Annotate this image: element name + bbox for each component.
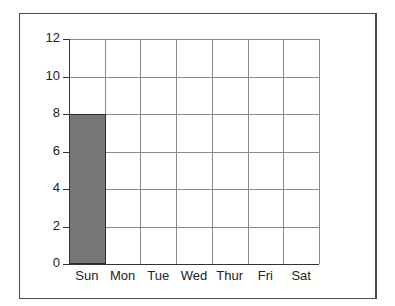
gridline-horizontal [69, 189, 319, 190]
y-tick-mark [63, 114, 70, 115]
y-tick-label: 0 [30, 255, 60, 270]
plot-area [69, 39, 319, 264]
bar-sun [69, 114, 106, 264]
gridline-vertical [176, 39, 177, 264]
gridline-horizontal [69, 114, 319, 115]
y-tick-label: 12 [30, 30, 60, 45]
y-tick-mark [63, 189, 70, 190]
gridline-horizontal [69, 39, 319, 40]
gridline-vertical [248, 39, 249, 264]
y-tick-label: 8 [30, 105, 60, 120]
gridline-vertical [140, 39, 141, 264]
gridline-horizontal [69, 152, 319, 153]
y-tick-mark [63, 264, 70, 265]
y-tick-label: 4 [30, 180, 60, 195]
gridline-vertical [283, 39, 284, 264]
x-tick-label: Mon [105, 268, 141, 283]
y-tick-mark [63, 227, 70, 228]
x-tick-label: Sat [283, 268, 319, 283]
x-tick-label: Tue [140, 268, 176, 283]
x-tick-label: Wed [176, 268, 212, 283]
y-tick-label: 10 [30, 67, 60, 82]
x-axis-line [69, 264, 319, 265]
x-tick-label: Sun [69, 268, 105, 283]
y-tick-mark [63, 77, 70, 78]
x-tick-label: Thur [212, 268, 248, 283]
y-tick-label: 6 [30, 142, 60, 157]
gridline-horizontal [69, 77, 319, 78]
y-tick-mark [63, 152, 70, 153]
gridline-vertical [319, 39, 320, 264]
x-tick-label: Fri [247, 268, 283, 283]
y-tick-mark [63, 39, 70, 40]
gridline-vertical [212, 39, 213, 264]
gridline-horizontal [69, 227, 319, 228]
y-tick-label: 2 [30, 217, 60, 232]
